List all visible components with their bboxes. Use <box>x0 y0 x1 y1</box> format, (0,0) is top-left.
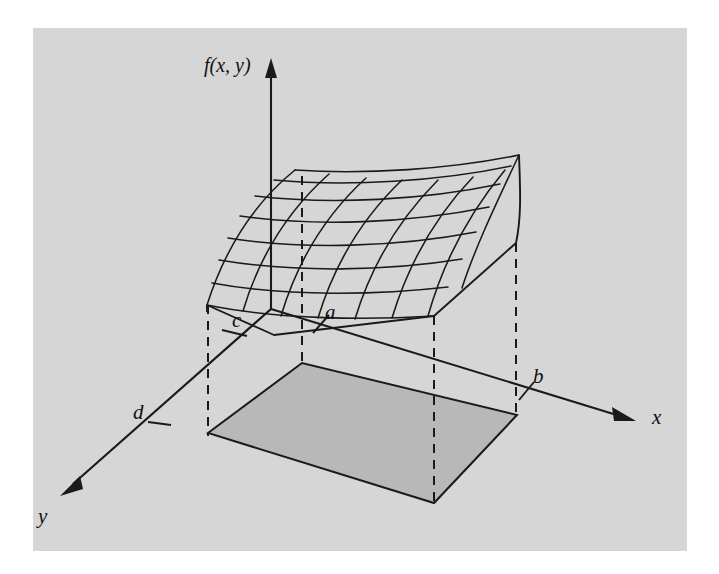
surface-edge-right <box>516 155 520 243</box>
x-axis-arrowhead <box>612 407 636 421</box>
x-axis-label: x <box>651 405 662 429</box>
tick-mark-d <box>148 422 171 425</box>
figure-root: f(x, y) x y a b c d <box>0 0 719 574</box>
base-region-rectangle <box>208 363 517 503</box>
tick-label-b: b <box>533 364 544 388</box>
y-axis-arrowhead <box>60 476 83 496</box>
tick-label-c: c <box>232 308 242 332</box>
surface-diagram: f(x, y) x y a b c d <box>0 0 719 574</box>
surface-mesh-y-lines <box>207 155 519 319</box>
y-axis-label: y <box>36 504 48 528</box>
tick-label-d: d <box>133 400 144 424</box>
z-axis-label: f(x, y) <box>204 54 251 77</box>
tick-label-a: a <box>325 300 336 324</box>
z-axis-arrowhead <box>265 58 277 78</box>
